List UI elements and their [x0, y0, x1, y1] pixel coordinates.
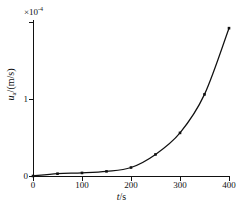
y-axis-title: ua/(m/s) [5, 50, 18, 120]
data-point-0 [32, 175, 35, 178]
y-axis-subscript: a [10, 92, 18, 95]
data-point-100 [81, 172, 84, 175]
chart-figure: ×10-4 0100200300400 01 t/s ua/(m/s) [0, 0, 243, 206]
x-axis-title: t/s [0, 191, 243, 202]
y-axis-unit: /(m/s) [5, 69, 16, 93]
data-point-350 [203, 93, 206, 96]
y-axis-variable: u [5, 96, 16, 101]
data-series-plot [0, 0, 243, 206]
data-point-200 [130, 166, 133, 169]
data-curve-line [33, 28, 229, 176]
data-point-50 [56, 172, 59, 175]
x-axis-unit: /s [120, 191, 127, 202]
data-point-250 [154, 153, 157, 156]
data-point-150 [105, 170, 108, 173]
data-point-400 [228, 27, 231, 30]
data-point-300 [179, 132, 182, 135]
